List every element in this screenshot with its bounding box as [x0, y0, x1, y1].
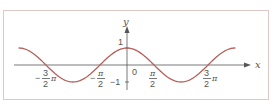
y-axis-arrow-icon [125, 26, 130, 33]
svg-text:π: π [97, 69, 104, 78]
svg-text:2: 2 [150, 79, 155, 89]
cosine-graph: x y 1 −1 0 − 3 2 π − π 2 π 2 3 2 π [0, 0, 277, 106]
svg-text:2: 2 [98, 79, 103, 89]
y-tick-label-1: 1 [118, 37, 123, 47]
x-axis-arrow-icon [244, 63, 251, 68]
origin-label: 0 [132, 67, 137, 77]
svg-text:3: 3 [204, 68, 209, 78]
svg-text:2: 2 [204, 79, 209, 89]
svg-text:−: − [35, 73, 40, 83]
svg-text:3: 3 [43, 68, 48, 78]
y-tick-label-neg1: −1 [110, 77, 120, 87]
x-tick-label-pi-2: π 2 [149, 69, 157, 89]
x-tick-label-3pi-2: 3 2 π [203, 68, 218, 89]
svg-text:−: − [90, 73, 95, 83]
x-tick-label-neg-3pi-2: − 3 2 π [35, 68, 57, 89]
svg-text:π: π [50, 74, 57, 83]
svg-text:π: π [211, 74, 218, 83]
svg-text:π: π [149, 69, 156, 78]
svg-text:2: 2 [43, 79, 48, 89]
y-axis-label: y [122, 16, 129, 27]
x-axis-label: x [255, 59, 261, 70]
